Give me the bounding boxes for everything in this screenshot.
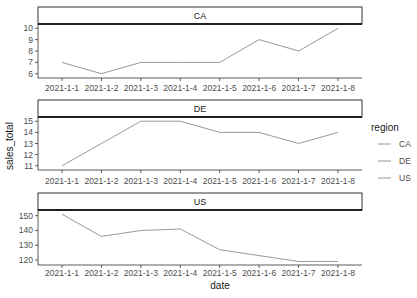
faceted-line-chart: CA6789102021-1-12021-1-22021-1-32021-1-4… <box>0 0 417 298</box>
series-line-de <box>62 121 338 166</box>
x-tick-label: 2021-1-5 <box>203 176 237 186</box>
series-line-ca <box>62 28 338 73</box>
x-tick-label: 2021-1-3 <box>124 83 158 93</box>
x-tick-label: 2021-1-5 <box>203 268 237 278</box>
x-tick-label: 2021-1-4 <box>163 176 197 186</box>
y-tick-label: 12 <box>24 150 34 160</box>
x-tick-label: 2021-1-1 <box>45 268 79 278</box>
legend-entry-label: DE <box>399 156 411 166</box>
y-tick-label: 9 <box>28 35 33 45</box>
x-axis-title: date <box>210 280 230 291</box>
x-tick-label: 2021-1-1 <box>45 83 79 93</box>
y-tick-label: 8 <box>28 46 33 56</box>
x-tick-label: 2021-1-3 <box>124 176 158 186</box>
y-tick-label: 13 <box>24 139 34 149</box>
x-tick-label: 2021-1-6 <box>242 268 276 278</box>
facet-label: US <box>194 197 207 207</box>
legend-entry-label: US <box>399 173 411 183</box>
y-tick-label: 15 <box>24 116 34 126</box>
x-tick-label: 2021-1-5 <box>203 83 237 93</box>
y-tick-label: 140 <box>19 225 33 235</box>
x-tick-label: 2021-1-8 <box>321 83 355 93</box>
x-tick-label: 2021-1-1 <box>45 176 79 186</box>
facet-label: CA <box>194 11 207 21</box>
chart-canvas: CA6789102021-1-12021-1-22021-1-32021-1-4… <box>0 0 417 298</box>
series-line-us <box>62 214 338 261</box>
y-axis-title: sales_total <box>4 122 15 170</box>
facet-label: DE <box>194 104 207 114</box>
x-tick-label: 2021-1-8 <box>321 176 355 186</box>
x-tick-label: 2021-1-2 <box>84 83 118 93</box>
x-tick-label: 2021-1-7 <box>282 268 316 278</box>
y-tick-label: 6 <box>28 69 33 79</box>
y-tick-label: 7 <box>28 57 33 67</box>
x-tick-label: 2021-1-2 <box>84 268 118 278</box>
y-tick-label: 130 <box>19 240 33 250</box>
legend-title: region <box>371 122 399 133</box>
y-tick-label: 120 <box>19 255 33 265</box>
y-tick-label: 150 <box>19 211 33 221</box>
x-tick-label: 2021-1-3 <box>124 268 158 278</box>
x-tick-label: 2021-1-6 <box>242 83 276 93</box>
x-tick-label: 2021-1-8 <box>321 268 355 278</box>
x-tick-label: 2021-1-7 <box>282 176 316 186</box>
legend-entry-label: CA <box>399 139 411 149</box>
x-tick-label: 2021-1-4 <box>163 268 197 278</box>
y-tick-label: 10 <box>24 23 34 33</box>
y-tick-label: 14 <box>24 127 34 137</box>
x-tick-label: 2021-1-7 <box>282 83 316 93</box>
x-tick-label: 2021-1-4 <box>163 83 197 93</box>
x-tick-label: 2021-1-6 <box>242 176 276 186</box>
y-tick-label: 11 <box>24 161 33 171</box>
x-tick-label: 2021-1-2 <box>84 176 118 186</box>
